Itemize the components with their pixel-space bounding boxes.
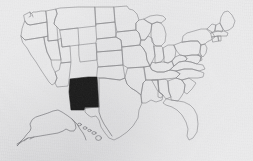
hawaii-island-oahu xyxy=(83,127,87,130)
state-maryland[interactable] xyxy=(185,55,201,64)
state-michigan-upper[interactable] xyxy=(144,15,166,24)
state-south-dakota[interactable] xyxy=(96,22,116,39)
state-maine[interactable] xyxy=(220,11,235,31)
state-nebraska[interactable] xyxy=(96,37,122,52)
state-west-virginia[interactable] xyxy=(172,55,187,66)
hawaii-island-maui xyxy=(92,132,96,135)
state-minnesota[interactable] xyxy=(114,6,139,32)
state-new-hampshire[interactable] xyxy=(215,23,223,32)
state-louisiana[interactable] xyxy=(141,80,163,103)
state-new-mexico-highlighted[interactable] xyxy=(69,77,99,110)
state-tennessee[interactable] xyxy=(144,66,180,80)
rio-grande-border xyxy=(99,107,112,136)
state-colorado[interactable] xyxy=(79,43,97,62)
state-iowa[interactable] xyxy=(116,30,141,47)
state-south-carolina[interactable] xyxy=(182,78,196,94)
state-illinois[interactable] xyxy=(140,36,155,66)
hawaii-island-kauai xyxy=(78,123,82,126)
us-map-svg[interactable] xyxy=(0,0,253,161)
hawaii-island-molokai xyxy=(88,129,91,131)
state-montana[interactable] xyxy=(54,7,96,30)
paper-grain-overlay xyxy=(0,0,253,161)
state-pennsylvania[interactable] xyxy=(174,41,201,56)
state-ohio[interactable] xyxy=(163,45,176,63)
inset-hawaii[interactable] xyxy=(78,123,102,140)
state-north-dakota[interactable] xyxy=(95,7,115,24)
state-delaware[interactable] xyxy=(198,55,202,61)
state-rhode-island[interactable] xyxy=(218,36,221,41)
state-new-york[interactable] xyxy=(182,29,215,45)
state-california[interactable] xyxy=(21,36,57,85)
state-wyoming[interactable] xyxy=(60,28,79,47)
state-utah[interactable] xyxy=(58,38,71,63)
state-indiana[interactable] xyxy=(154,46,164,63)
state-virginia[interactable] xyxy=(170,61,205,71)
state-new-jersey[interactable] xyxy=(200,44,207,57)
state-arkansas[interactable] xyxy=(125,67,146,95)
state-georgia[interactable] xyxy=(168,78,185,101)
hawaii-island-hawaii xyxy=(96,136,102,141)
state-missouri[interactable] xyxy=(122,45,150,68)
state-florida[interactable] xyxy=(163,99,198,140)
inset-alaska[interactable] xyxy=(17,110,76,146)
state-mississippi[interactable] xyxy=(152,80,163,98)
state-kansas[interactable] xyxy=(97,50,123,67)
state-arizona[interactable] xyxy=(55,62,71,87)
state-alabama[interactable] xyxy=(158,79,171,99)
us-state-map-figure xyxy=(0,0,253,161)
